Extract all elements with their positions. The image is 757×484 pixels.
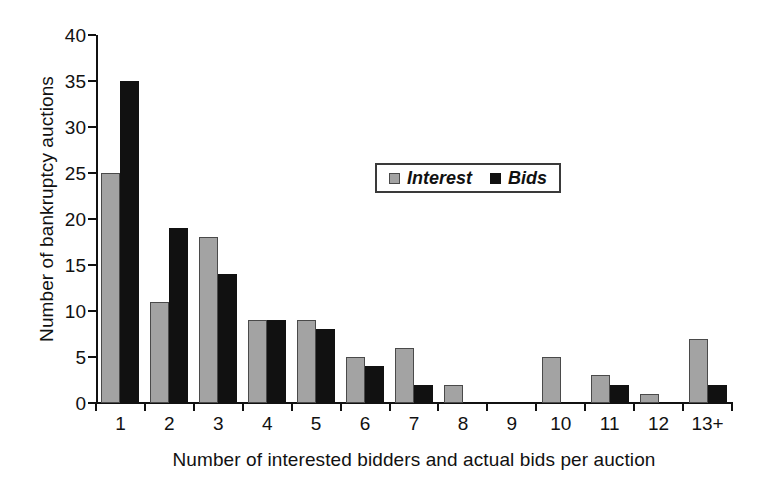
x-axis-tick-label: 13+ [683, 414, 732, 433]
x-axis-tick-mark [437, 402, 439, 411]
y-axis-tick-label: 20 [38, 210, 86, 229]
x-axis-title: Number of interested bidders and actual … [96, 449, 732, 471]
bar-interest-8 [444, 385, 463, 403]
bar-interest-11 [591, 375, 610, 403]
bar-interest-1 [101, 173, 120, 403]
bar-bids-3 [218, 274, 237, 403]
x-axis-tick-label: 6 [341, 414, 390, 433]
y-axis-tick-label: 15 [38, 256, 86, 275]
bar-bids-7 [414, 385, 433, 403]
x-axis-tick-label: 3 [194, 414, 243, 433]
x-axis-tick-mark [340, 402, 342, 411]
y-axis-tick-label: 40 [38, 26, 86, 45]
bar-interest-3 [199, 237, 218, 403]
bar-bids-5 [316, 329, 335, 403]
bar-interest-13plus [689, 339, 708, 403]
y-axis-tick-mark [88, 126, 96, 128]
x-axis-tick-mark [242, 402, 244, 411]
legend-swatch-interest-icon [389, 173, 400, 184]
x-axis-tick-mark [633, 402, 635, 411]
x-axis-tick-label: 7 [390, 414, 439, 433]
y-axis-tick-label: 0 [38, 394, 86, 413]
bar-bids-13plus [708, 385, 727, 403]
y-axis-tick-label: 25 [38, 164, 86, 183]
x-axis-tick-label: 1 [96, 414, 145, 433]
y-axis-tick-label: 10 [38, 302, 86, 321]
bar-bids-4 [267, 320, 286, 403]
x-axis-tick-mark [193, 402, 195, 411]
bar-interest-2 [150, 302, 169, 403]
legend-entry-bids: Bids [490, 168, 547, 189]
bar-interest-12 [640, 394, 659, 403]
x-axis-tick-mark [291, 402, 293, 411]
bar-interest-6 [346, 357, 365, 403]
y-axis-tick-label: 30 [38, 118, 86, 137]
bar-interest-10 [542, 357, 561, 403]
bar-bids-11 [610, 385, 629, 403]
x-axis-tick-label: 10 [536, 414, 585, 433]
x-axis-tick-mark [144, 402, 146, 411]
bar-bids-6 [365, 366, 384, 403]
plot-area: 0510152025303540 [96, 35, 732, 403]
y-axis-tick-mark [88, 172, 96, 174]
y-axis-tick-label: 5 [38, 348, 86, 367]
y-axis-tick-mark [88, 310, 96, 312]
x-axis-tick-mark [486, 402, 488, 411]
y-axis-tick-mark [88, 264, 96, 266]
y-axis-tick-mark [88, 356, 96, 358]
bar-interest-5 [297, 320, 316, 403]
legend-label-bids: Bids [508, 168, 547, 189]
x-axis-tick-mark [535, 402, 537, 411]
x-axis-tick-mark [682, 402, 684, 411]
y-axis-tick-mark [88, 80, 96, 82]
x-axis-tick-label: 9 [487, 414, 536, 433]
x-axis-tick-label: 8 [438, 414, 487, 433]
y-axis-tick-label: 35 [38, 72, 86, 91]
bar-interest-4 [248, 320, 267, 403]
x-axis-tick-mark [584, 402, 586, 411]
bar-chart-figure: Number of bankruptcy auctions 0510152025… [0, 0, 757, 484]
y-axis-tick-mark [88, 218, 96, 220]
bar-interest-7 [395, 348, 414, 403]
x-axis-tick-label: 4 [243, 414, 292, 433]
legend-entry-interest: Interest [389, 168, 472, 189]
chart-legend: Interest Bids [375, 163, 561, 193]
x-axis-tick-label: 5 [292, 414, 341, 433]
bar-bids-2 [169, 228, 188, 403]
y-axis-tick-mark [88, 34, 96, 36]
x-axis-tick-mark [389, 402, 391, 411]
legend-swatch-bids-icon [490, 173, 501, 184]
y-axis-title: Number of bankruptcy auctions [36, 44, 58, 374]
x-axis-tick-label: 12 [634, 414, 683, 433]
x-axis-tick-label: 2 [145, 414, 194, 433]
x-axis-tick-label: 11 [585, 414, 634, 433]
bar-bids-1 [120, 81, 139, 403]
x-axis-tick-mark [95, 402, 97, 411]
x-axis-tick-mark [731, 402, 733, 411]
legend-label-interest: Interest [407, 168, 472, 189]
